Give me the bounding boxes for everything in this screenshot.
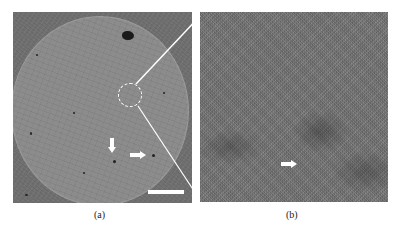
zoom-connector-lines <box>0 0 399 233</box>
caption-a: (a) <box>94 209 105 220</box>
caption-b: (b) <box>286 209 298 220</box>
connector-line-top <box>136 16 200 84</box>
connector-line-bottom <box>138 106 200 200</box>
